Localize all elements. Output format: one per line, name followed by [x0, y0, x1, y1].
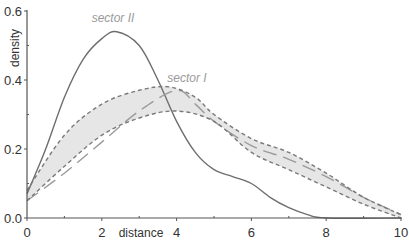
x-axis-label: distance: [119, 226, 164, 240]
y-tick-label: 0.0: [4, 211, 22, 226]
x-tick-label: 4: [173, 225, 180, 240]
envelope-fill: [27, 87, 401, 218]
x-tick-label: 0: [23, 225, 30, 240]
ticks: 02468100.00.20.40.6: [4, 4, 408, 240]
y-axis-label: density: [8, 29, 22, 67]
y-tick-label: 0.4: [4, 73, 22, 88]
density-chart: 02468100.00.20.40.6 density distance sec…: [0, 0, 409, 245]
series-sector-i: [27, 90, 401, 214]
sector-i-label: sector I: [167, 71, 207, 85]
x-tick-label: 2: [98, 225, 105, 240]
y-tick-label: 0.2: [4, 142, 22, 157]
sector-ii-label: sector II: [92, 11, 135, 25]
envelope-band: [27, 87, 401, 218]
y-tick-label: 0.6: [4, 4, 22, 19]
x-tick-label: 10: [394, 225, 408, 240]
x-tick-label: 8: [323, 225, 330, 240]
x-tick-label: 6: [248, 225, 255, 240]
